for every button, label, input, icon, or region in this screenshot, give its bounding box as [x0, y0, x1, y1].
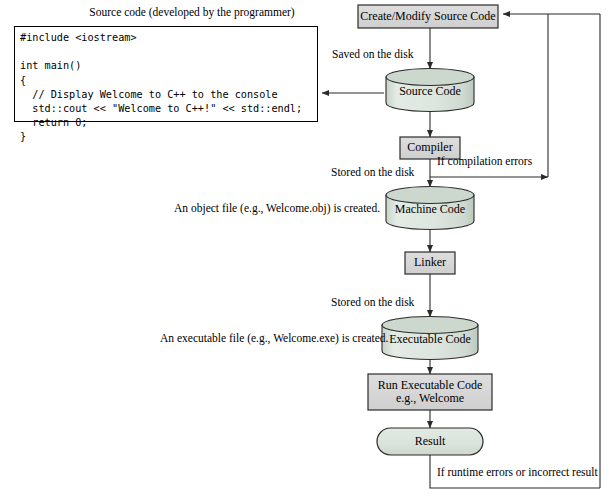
flowchart-diagram: Source code (developed by the programmer…: [0, 0, 609, 499]
node-linker: [405, 252, 455, 274]
edge-label-if-runtime-errors: If runtime errors or incorrect result: [437, 466, 598, 478]
node-result: [377, 428, 483, 455]
node-machine-code-cylinder: [386, 187, 474, 230]
node-source-code-cylinder: [386, 69, 474, 112]
node-run-executable-code: [368, 374, 492, 410]
edge-label-stored-on-the-disk-machine: Stored on the disk: [331, 166, 414, 178]
source-code-listing: #include <iostream> int main() { // Disp…: [20, 31, 302, 145]
edge-label-stored-on-the-disk-executable: Stored on the disk: [331, 296, 414, 308]
source-code-caption: Source code (developed by the programmer…: [52, 6, 332, 18]
annotation-object-file-created: An object file (e.g., Welcome.obj) is cr…: [174, 202, 378, 214]
node-executable-code-cylinder: [382, 317, 478, 360]
source-code-box: #include <iostream> int main() { // Disp…: [14, 26, 318, 122]
node-create-modify-source-code: [358, 5, 498, 28]
edge-label-if-compilation-errors: If compilation errors: [437, 155, 532, 167]
edge-label-saved-on-the-disk: Saved on the disk: [332, 48, 413, 60]
annotation-executable-file-created: An executable file (e.g., Welcome.exe) i…: [160, 332, 378, 344]
